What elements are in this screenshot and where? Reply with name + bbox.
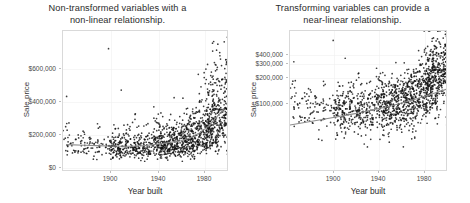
panel-left-x-axis-title: Year built (62, 186, 228, 196)
panel-right-x-axis-title: Year built (289, 186, 447, 196)
figure-two-panel-scatter: Non-transformed variables with a non-lin… (0, 0, 470, 203)
panel-right-y-tick-300000: $300,000 (239, 60, 283, 67)
panel-left-x-tickmark-1980 (204, 171, 205, 173)
panel-right-scatter-svg (290, 31, 447, 171)
panel-left-x-tick-1900: 1900 (94, 175, 126, 182)
panel-left-y-tick-400000: $400,000 (12, 98, 56, 105)
panel-right-y-tick-100000: $100,000 (239, 100, 283, 107)
panel-right-x-tickmark-1900 (333, 171, 334, 173)
panel-left-y-tick-200000: $200,000 (12, 131, 56, 138)
panel-left-y-tickmark-0 (59, 167, 61, 168)
panel-right-points (290, 31, 447, 148)
panel-left-x-tickmark-1900 (110, 171, 111, 173)
panel-left-y-tick-0: $0 (12, 164, 56, 171)
panel-left-y-tickmark-200000 (59, 134, 61, 135)
panel-left-x-tick-1980: 1980 (188, 175, 220, 182)
panel-left-y-tickmark-400000 (59, 101, 61, 102)
panel-right-x-tick-1940: 1940 (362, 175, 394, 182)
panel-right-y-tickmark-200000 (286, 77, 288, 78)
panel-right-y-tickmark-100000 (286, 103, 288, 104)
panel-left-scatter-svg (63, 31, 228, 171)
panel-right-x-tickmark-1940 (378, 171, 379, 173)
panel-right-y-tick-200000: $200,000 (239, 74, 283, 81)
panel-left: Non-transformed variables with a non-lin… (0, 0, 235, 203)
panel-left-y-tickmark-600000 (59, 68, 61, 69)
panel-right-title: Transforming variables can provide a nea… (235, 3, 470, 26)
panel-right-x-tickmark-1980 (424, 171, 425, 173)
panel-left-y-tick-600000: $600,000 (12, 65, 56, 72)
panel-right-y-tickmark-400000 (286, 54, 288, 55)
panel-right-y-tickmark-300000 (286, 63, 288, 64)
panel-right-x-tick-1980: 1980 (408, 175, 440, 182)
panel-left-x-tick-1940: 1940 (142, 175, 174, 182)
panel-left-title: Non-transformed variables with a non-lin… (0, 3, 235, 26)
panel-right-plot-area (289, 30, 447, 171)
panel-right: Transforming variables can provide a nea… (235, 0, 470, 203)
panel-left-x-tickmark-1940 (158, 171, 159, 173)
panel-left-points (63, 31, 228, 162)
panel-left-plot-area (62, 30, 228, 171)
panel-right-x-tick-1900: 1900 (317, 175, 349, 182)
panel-right-y-tick-400000: $400,000 (239, 51, 283, 58)
